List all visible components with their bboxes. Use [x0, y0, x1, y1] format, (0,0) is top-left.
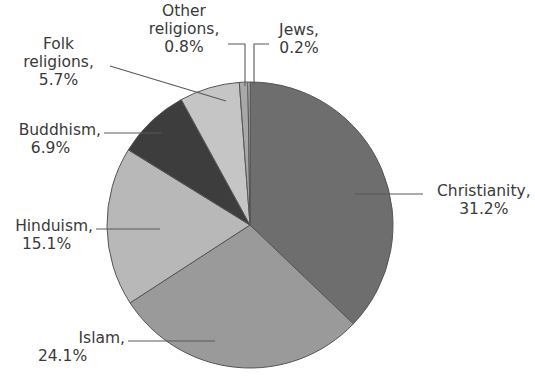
pie-label-jews: Jews, 0.2%	[271, 22, 327, 58]
pie-label-buddhism-name: Buddhism,	[0, 122, 101, 140]
pie-label-islam: Islam, 24.1%	[0, 330, 125, 366]
pie-label-buddhism-value: 6.9%	[0, 140, 101, 158]
pie-label-islam-value: 24.1%	[0, 348, 125, 366]
pie-label-hinduism-name: Hinduism,	[0, 218, 93, 236]
pie-chart-figure: Christianity, 31.2% Islam, 24.1% Hinduis…	[0, 0, 535, 385]
pie-label-jews-name: Jews,	[271, 22, 327, 40]
pie-label-hinduism: Hinduism, 15.1%	[0, 218, 93, 254]
pie-label-buddhism: Buddhism, 6.9%	[0, 122, 101, 158]
pie-slices	[107, 82, 393, 368]
leader-line-other-religions	[228, 44, 245, 86]
pie-label-other-religions-name2: religions,	[140, 21, 228, 39]
pie-label-folk-religions-value: 5.7%	[10, 72, 107, 90]
pie-label-jews-value: 0.2%	[271, 40, 327, 58]
leader-line-folk-religions	[110, 66, 226, 101]
pie-label-islam-name: Islam,	[0, 330, 125, 348]
pie-label-folk-religions-name2: religions,	[10, 54, 107, 72]
pie-label-christianity-value: 31.2%	[437, 201, 531, 219]
pie-label-christianity-name: Christianity,	[437, 183, 531, 201]
pie-label-folk-religions-name1: Folk	[10, 36, 107, 54]
pie-label-christianity: Christianity, 31.2%	[437, 183, 531, 219]
pie-label-hinduism-value: 15.1%	[0, 236, 93, 254]
leader-line-jews	[254, 44, 269, 84]
pie-label-other-religions-name1: Other	[140, 3, 228, 21]
pie-label-folk-religions: Folk religions, 5.7%	[10, 36, 107, 90]
pie-label-other-religions: Other religions, 0.8%	[140, 3, 228, 57]
pie-label-other-religions-value: 0.8%	[140, 39, 228, 57]
